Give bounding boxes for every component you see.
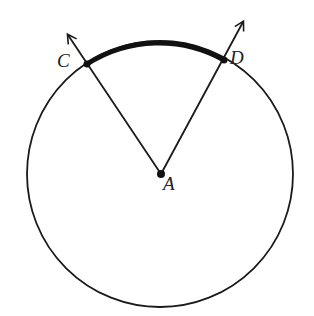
label-d: D (229, 47, 244, 68)
point-c (84, 61, 91, 68)
point-d (221, 57, 228, 64)
label-c: C (57, 50, 70, 71)
ray-ac (68, 35, 161, 174)
arc-cd (87, 43, 224, 64)
label-a: A (161, 173, 175, 194)
circle-diagram: C D A (0, 0, 314, 316)
